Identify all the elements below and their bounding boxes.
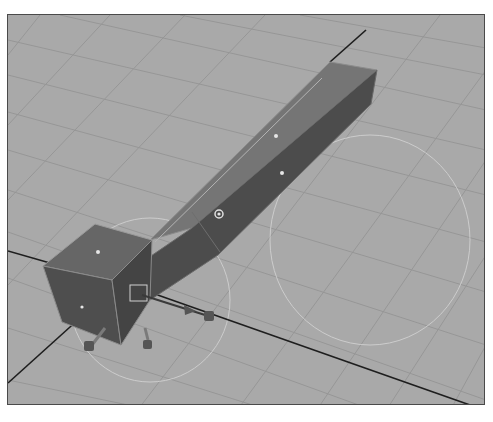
z-axis-handle[interactable] — [145, 328, 148, 340]
3d-viewport[interactable] — [7, 14, 485, 405]
scene-canvas[interactable] — [8, 15, 485, 405]
face-center-marker[interactable] — [80, 305, 83, 308]
extruded-bar[interactable] — [148, 62, 377, 300]
face-center-marker[interactable] — [280, 171, 284, 175]
z-axis-scale-cube-icon[interactable] — [143, 340, 152, 349]
y-axis-scale-cube-icon[interactable] — [84, 341, 94, 351]
face-center-marker[interactable] — [274, 134, 278, 138]
manipulator-center-dot — [217, 212, 220, 215]
face-center-marker[interactable] — [96, 250, 100, 254]
x-axis-scale-cube-icon[interactable] — [204, 311, 214, 321]
